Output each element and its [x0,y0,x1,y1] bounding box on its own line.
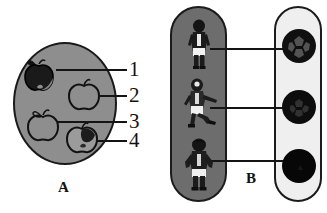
person-standing-top [184,19,214,71]
panel-a-letter: A [58,179,69,196]
leader-line-2 [100,95,127,97]
callout-number-4: 4 [129,130,140,151]
leader-line-1 [56,69,127,71]
panel-a: 1 2 3 4 A [0,0,164,213]
panel-b: B [164,0,327,213]
leader-line-4 [96,140,127,142]
person-hands-on-hips-bottom [182,138,216,192]
apple-outline-top-right [66,77,102,112]
ball-patterned-top [281,28,317,64]
apple-outline-bottom-left [25,107,61,144]
apple-dark-top-left [22,57,56,93]
apple-partial-dark-bottom-right [64,120,100,156]
connector-bottom [210,160,292,162]
callout-number-2: 2 [129,85,140,106]
leader-line-3 [57,121,127,123]
panel-b-letter: B [246,170,256,187]
ball-solid-bottom [281,148,317,184]
connector-middle [210,107,292,109]
figure-root: 1 2 3 4 A [0,0,327,213]
ball-patterned-middle [281,89,317,125]
connector-top [210,48,292,50]
person-kicking-middle [178,78,222,130]
callout-number-1: 1 [129,59,140,80]
